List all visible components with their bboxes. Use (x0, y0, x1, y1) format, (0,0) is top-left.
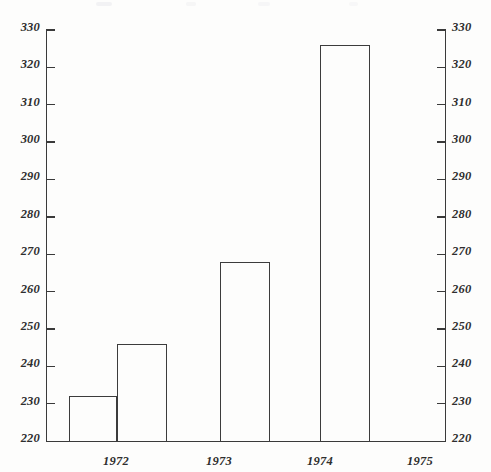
y-tick-label-left: 330 (21, 21, 40, 34)
scan-artifact (258, 2, 270, 6)
tick-mark-right (437, 104, 446, 105)
y-tick-label-right: 220 (452, 432, 471, 445)
tick-mark-left (46, 328, 55, 329)
y-tick-label-right: 280 (452, 208, 471, 221)
y-tick-label-right: 290 (452, 170, 471, 183)
y-tick-label-left: 270 (21, 245, 40, 258)
tick-mark-left (46, 254, 55, 255)
tick-mark-left (46, 179, 55, 180)
y-tick-label-left: 230 (21, 395, 40, 408)
x-axis-label-1972: 1972 (103, 454, 129, 469)
bar-chart-figure: 2202202302302402402502502602602702702802… (0, 0, 491, 472)
y-tick-label-left: 240 (21, 357, 40, 370)
y-tick-label-right: 300 (452, 133, 471, 146)
bar-1973 (117, 344, 167, 442)
x-axis-label-1974: 1974 (307, 454, 333, 469)
tick-mark-right (437, 328, 446, 329)
bar-1974 (220, 262, 270, 442)
y-tick-label-right: 250 (452, 320, 471, 333)
scan-artifact (96, 2, 112, 6)
y-axis-right (445, 30, 446, 442)
tick-mark-right (437, 403, 446, 404)
tick-mark-right (437, 29, 446, 30)
y-tick-label-left: 220 (21, 432, 40, 445)
tick-mark-left (46, 141, 55, 142)
scan-artifact (349, 2, 358, 6)
y-tick-label-left: 290 (21, 170, 40, 183)
tick-mark-right (437, 291, 446, 292)
x-axis-label-1975: 1975 (407, 454, 433, 469)
y-tick-label-left: 310 (21, 96, 40, 109)
tick-mark-right (437, 179, 446, 180)
tick-mark-right (437, 216, 446, 217)
tick-mark-left (46, 366, 55, 367)
tick-mark-right (437, 366, 446, 367)
y-tick-label-right: 260 (452, 283, 471, 296)
bar-1972 (69, 396, 117, 442)
y-tick-label-right: 240 (452, 357, 471, 370)
tick-mark-left (46, 403, 55, 404)
plot-area: 2202202302302402402502502602602702702802… (46, 30, 446, 442)
y-tick-label-right: 270 (452, 245, 471, 258)
y-tick-label-right: 310 (452, 96, 471, 109)
tick-mark-right (437, 141, 446, 142)
x-axis-label-1973: 1973 (206, 454, 232, 469)
tick-mark-right (437, 254, 446, 255)
y-tick-label-left: 250 (21, 320, 40, 333)
tick-mark-right (437, 67, 446, 68)
y-axis-left (46, 30, 47, 442)
tick-mark-left (46, 104, 55, 105)
tick-mark-left (46, 67, 55, 68)
y-tick-label-left: 300 (21, 133, 40, 146)
y-tick-label-left: 280 (21, 208, 40, 221)
y-tick-label-right: 230 (452, 395, 471, 408)
bar-1975 (320, 45, 370, 442)
y-tick-label-left: 260 (21, 283, 40, 296)
scan-artifact (186, 2, 196, 6)
tick-mark-left (46, 216, 55, 217)
y-tick-label-right: 330 (452, 21, 471, 34)
tick-mark-left (46, 291, 55, 292)
y-tick-label-right: 320 (452, 58, 471, 71)
y-tick-label-left: 320 (21, 58, 40, 71)
tick-mark-left (46, 29, 55, 30)
